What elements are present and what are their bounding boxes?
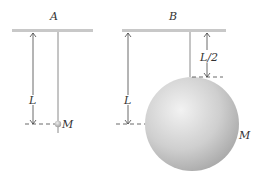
mass-label-b: M (238, 129, 251, 142)
panel-b: B L L/2 M (116, 10, 251, 171)
point-mass-ball (55, 121, 61, 127)
panel-b-label: B (168, 10, 177, 23)
length-arrow-b (125, 33, 131, 124)
half-length-label: L/2 (199, 51, 218, 64)
length-arrow-a (30, 33, 36, 124)
mass-label-a: M (61, 118, 74, 131)
sphere-mass (145, 77, 239, 171)
ceiling-a (12, 29, 93, 32)
panel-a: A L M (12, 10, 93, 133)
length-label-b: L (123, 94, 131, 107)
ceiling-b (122, 29, 226, 32)
pendulum-diagram: A L M B L (0, 0, 256, 178)
length-label-a: L (28, 94, 36, 107)
panel-a-label: A (49, 10, 58, 23)
